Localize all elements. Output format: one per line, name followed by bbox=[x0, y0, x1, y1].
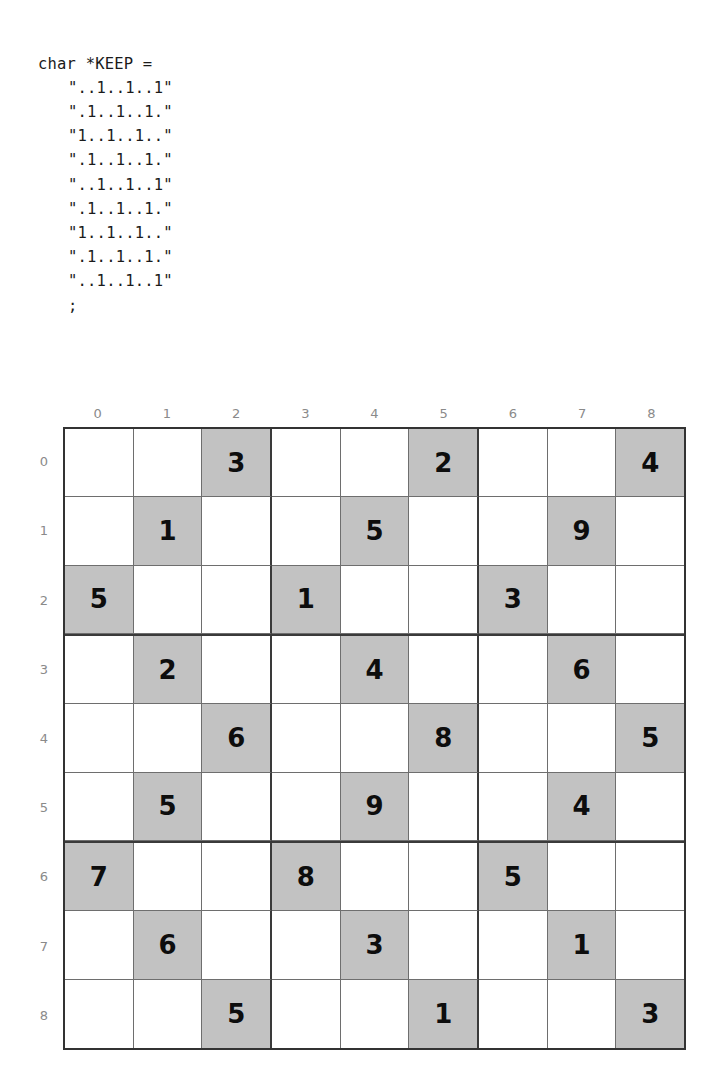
grid-cell-r5-c7[interactable]: 4 bbox=[548, 773, 617, 841]
grid-cell-r5-c5[interactable] bbox=[409, 773, 479, 841]
grid-cell-r7-c0[interactable] bbox=[65, 911, 134, 979]
grid-cell-r2-c5[interactable] bbox=[409, 566, 479, 634]
grid-cell-r3-c5[interactable] bbox=[409, 636, 479, 704]
grid-cell-r4-c3[interactable] bbox=[272, 704, 341, 772]
grid-cell-r6-c8[interactable] bbox=[616, 843, 684, 911]
grid-cell-r8-c1[interactable] bbox=[134, 980, 203, 1048]
grid-cell-r1-c4[interactable]: 5 bbox=[341, 497, 410, 565]
grid-cell-r1-c3[interactable] bbox=[272, 497, 341, 565]
grid-cell-r3-c1[interactable]: 2 bbox=[134, 636, 203, 704]
grid-cell-r4-c8[interactable]: 5 bbox=[616, 704, 684, 772]
grid-cell-r5-c3[interactable] bbox=[272, 773, 341, 841]
grid-cell-r6-c1[interactable] bbox=[134, 843, 203, 911]
grid-cell-r6-c0[interactable]: 7 bbox=[65, 843, 134, 911]
grid-cell-r0-c6[interactable] bbox=[479, 429, 548, 497]
grid-cell-r0-c2[interactable]: 3 bbox=[202, 429, 272, 497]
row-header-8: 8 bbox=[24, 981, 57, 1050]
grid-row: 246 bbox=[65, 636, 684, 704]
grid-cell-r6-c7[interactable] bbox=[548, 843, 617, 911]
grid-cell-r2-c6[interactable]: 3 bbox=[479, 566, 548, 634]
grid-row: 324 bbox=[65, 429, 684, 497]
grid-cell-r8-c7[interactable] bbox=[548, 980, 617, 1048]
row-header-6: 6 bbox=[24, 842, 57, 911]
grid-cell-r0-c4[interactable] bbox=[341, 429, 410, 497]
grid-cell-r1-c7[interactable]: 9 bbox=[548, 497, 617, 565]
grid-cell-r8-c3[interactable] bbox=[272, 980, 341, 1048]
grid-cell-r5-c2[interactable] bbox=[202, 773, 272, 841]
grid-cell-r5-c4[interactable]: 9 bbox=[341, 773, 410, 841]
grid-cell-r7-c7[interactable]: 1 bbox=[548, 911, 617, 979]
grid-cell-r4-c4[interactable] bbox=[341, 704, 410, 772]
grid-cell-r2-c3[interactable]: 1 bbox=[272, 566, 341, 634]
grid-cell-r4-c7[interactable] bbox=[548, 704, 617, 772]
grid-cell-r3-c8[interactable] bbox=[616, 636, 684, 704]
grid-cell-r7-c4[interactable]: 3 bbox=[341, 911, 410, 979]
grid-cell-r8-c2[interactable]: 5 bbox=[202, 980, 272, 1048]
sudoku-grid[interactable]: 324159513246685594785631513 bbox=[63, 427, 686, 1050]
grid-cell-r5-c1[interactable]: 5 bbox=[134, 773, 203, 841]
grid-cell-r1-c2[interactable] bbox=[202, 497, 272, 565]
grid-cell-r0-c5[interactable]: 2 bbox=[409, 429, 479, 497]
grid-row: 513 bbox=[65, 980, 684, 1048]
grid-cell-r6-c2[interactable] bbox=[202, 843, 272, 911]
grid-cell-r6-c3[interactable]: 8 bbox=[272, 843, 341, 911]
grid-cell-r8-c5[interactable]: 1 bbox=[409, 980, 479, 1048]
grid-cell-r2-c1[interactable] bbox=[134, 566, 203, 634]
grid-cell-r4-c2[interactable]: 6 bbox=[202, 704, 272, 772]
grid-cell-r4-c0[interactable] bbox=[65, 704, 134, 772]
grid-cell-r3-c3[interactable] bbox=[272, 636, 341, 704]
row-header-2: 2 bbox=[24, 565, 57, 634]
grid-cell-r5-c0[interactable] bbox=[65, 773, 134, 841]
grid-cell-r2-c8[interactable] bbox=[616, 566, 684, 634]
grid-cell-r0-c0[interactable] bbox=[65, 429, 134, 497]
code-line: "1..1..1.." bbox=[38, 221, 173, 245]
grid-cell-r2-c0[interactable]: 5 bbox=[65, 566, 134, 634]
row-header-7: 7 bbox=[24, 912, 57, 981]
code-line: "1..1..1.." bbox=[38, 124, 173, 148]
grid-cell-r0-c8[interactable]: 4 bbox=[616, 429, 684, 497]
grid-cell-r1-c6[interactable] bbox=[479, 497, 548, 565]
grid-cell-r3-c0[interactable] bbox=[65, 636, 134, 704]
grid-cell-r0-c1[interactable] bbox=[134, 429, 203, 497]
column-header-4: 4 bbox=[340, 400, 409, 427]
grid-cell-r8-c8[interactable]: 3 bbox=[616, 980, 684, 1048]
code-line: char *KEEP = bbox=[38, 55, 152, 73]
grid-cell-r2-c4[interactable] bbox=[341, 566, 410, 634]
code-line: "..1..1..1" bbox=[38, 269, 173, 293]
grid-cell-r8-c6[interactable] bbox=[479, 980, 548, 1048]
grid-cell-r4-c5[interactable]: 8 bbox=[409, 704, 479, 772]
grid-cell-r3-c6[interactable] bbox=[479, 636, 548, 704]
grid-cell-r7-c5[interactable] bbox=[409, 911, 479, 979]
grid-cell-r4-c1[interactable] bbox=[134, 704, 203, 772]
grid-row: 785 bbox=[65, 843, 684, 911]
code-line: ".1..1..1." bbox=[38, 197, 173, 221]
grid-cell-r7-c8[interactable] bbox=[616, 911, 684, 979]
grid-cell-r8-c4[interactable] bbox=[341, 980, 410, 1048]
grid-cell-r6-c6[interactable]: 5 bbox=[479, 843, 548, 911]
row-header-5: 5 bbox=[24, 773, 57, 842]
grid-cell-r1-c1[interactable]: 1 bbox=[134, 497, 203, 565]
grid-cell-r1-c5[interactable] bbox=[409, 497, 479, 565]
grid-cell-r2-c7[interactable] bbox=[548, 566, 617, 634]
grid-cell-r0-c3[interactable] bbox=[272, 429, 341, 497]
grid-cell-r1-c0[interactable] bbox=[65, 497, 134, 565]
grid-row: 631 bbox=[65, 911, 684, 979]
grid-cell-r3-c7[interactable]: 6 bbox=[548, 636, 617, 704]
grid-cell-r8-c0[interactable] bbox=[65, 980, 134, 1048]
grid-cell-r0-c7[interactable] bbox=[548, 429, 617, 497]
grid-cell-r3-c2[interactable] bbox=[202, 636, 272, 704]
grid-cell-r7-c2[interactable] bbox=[202, 911, 272, 979]
grid-cell-r6-c4[interactable] bbox=[341, 843, 410, 911]
grid-cell-r2-c2[interactable] bbox=[202, 566, 272, 634]
grid-cell-r3-c4[interactable]: 4 bbox=[341, 636, 410, 704]
grid-cell-r7-c3[interactable] bbox=[272, 911, 341, 979]
grid-cell-r6-c5[interactable] bbox=[409, 843, 479, 911]
row-header-1: 1 bbox=[24, 496, 57, 565]
grid-cell-r4-c6[interactable] bbox=[479, 704, 548, 772]
grid-cell-r7-c1[interactable]: 6 bbox=[134, 911, 203, 979]
grid-cell-r1-c8[interactable] bbox=[616, 497, 684, 565]
grid-cell-r5-c6[interactable] bbox=[479, 773, 548, 841]
column-header-3: 3 bbox=[271, 400, 340, 427]
grid-cell-r7-c6[interactable] bbox=[479, 911, 548, 979]
grid-cell-r5-c8[interactable] bbox=[616, 773, 684, 841]
